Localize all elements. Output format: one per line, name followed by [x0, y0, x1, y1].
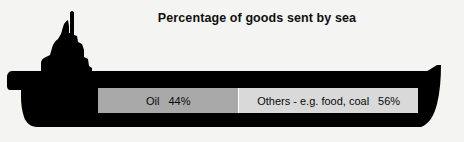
bar-segment-others-value: 56%	[378, 95, 400, 107]
bar-segment-oil-value: 44%	[168, 95, 190, 107]
ship-superstructure-shape	[41, 11, 92, 71]
bar-segment-oil-label: Oil	[146, 95, 159, 107]
bar-segment-oil[interactable]: Oil44%	[98, 88, 238, 113]
bar-segment-others-label: Others - e.g. food, coal	[257, 95, 369, 107]
bar-segment-others[interactable]: Others - e.g. food, coal56%	[238, 88, 418, 113]
ship-silhouette-icon	[0, 0, 464, 142]
chart-figure: Percentage of goods sent by sea Oil44% O…	[0, 0, 464, 142]
stacked-bar: Oil44% Others - e.g. food, coal56%	[98, 88, 418, 113]
